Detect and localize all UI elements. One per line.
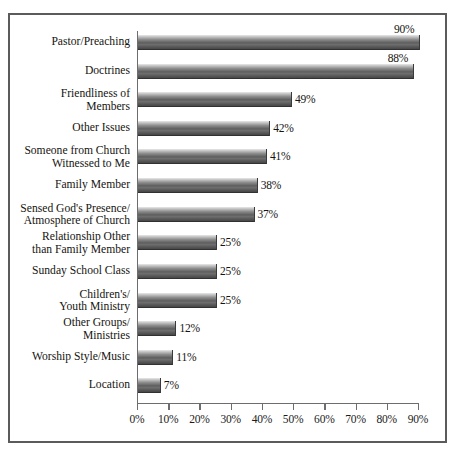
category-label: Doctrines [0, 60, 130, 78]
x-axis-tick [356, 403, 357, 410]
bar [138, 207, 255, 222]
bar-value-label: 49% [295, 93, 315, 105]
category-label: Other Groups/ Ministries [0, 317, 130, 342]
bar-row: Family Member38% [137, 174, 418, 203]
x-axis-tick [137, 403, 138, 410]
bar-value-label: 25% [220, 236, 240, 248]
bar-row: Children's/ Youth Ministry25% [137, 289, 418, 318]
x-axis-tick [231, 403, 232, 410]
category-label: Someone from Church Witnessed to Me [0, 145, 130, 170]
bar [138, 35, 420, 50]
chart-frame: 0%10%20%30%40%50%60%70%80%90% Pastor/Pre… [8, 13, 447, 443]
category-label: Family Member [0, 174, 130, 192]
category-label: Other Issues [0, 117, 130, 135]
bar-value-label: 7% [164, 379, 179, 391]
bar-row: Other Groups/ Ministries12% [137, 317, 418, 346]
category-label: Friendliness of Members [0, 88, 130, 113]
x-axis-line [137, 403, 418, 404]
category-label: Pastor/Preaching [0, 31, 130, 49]
bar-row: Worship Style/Music11% [137, 346, 418, 375]
bar [138, 264, 217, 279]
bar-row: Doctrines88% [137, 60, 418, 89]
bar-value-label: 12% [179, 322, 199, 334]
bar-value-label: 88% [388, 52, 408, 64]
bar-row: Location7% [137, 374, 418, 403]
bar-row: Other Issues42% [137, 117, 418, 146]
bar [138, 178, 258, 193]
x-axis-tick [168, 403, 169, 410]
category-label: Sensed God's Presence/ Atmosphere of Chu… [0, 203, 130, 228]
bar-value-label: 37% [258, 208, 278, 220]
bar [138, 121, 270, 136]
bar-row: Sunday School Class25% [137, 260, 418, 289]
bar-row: Sensed God's Presence/ Atmosphere of Chu… [137, 203, 418, 232]
bar [138, 64, 414, 79]
bar [138, 235, 217, 250]
bar-value-label: 25% [220, 294, 240, 306]
bar-row: Pastor/Preaching90% [137, 31, 418, 60]
x-axis-tick [387, 403, 388, 410]
bar-value-label: 90% [394, 23, 414, 35]
bar-value-label: 38% [261, 179, 281, 191]
bar [138, 350, 173, 365]
bar-value-label: 11% [176, 351, 196, 363]
x-axis-tick [199, 403, 200, 410]
bar-row: Friendliness of Members49% [137, 88, 418, 117]
bar [138, 149, 267, 164]
bar-row: Someone from Church Witnessed to Me41% [137, 145, 418, 174]
category-label: Location [0, 374, 130, 392]
category-label: Relationship Other than Family Member [0, 231, 130, 256]
bar [138, 92, 292, 107]
x-axis-tick [418, 403, 419, 410]
bar [138, 321, 176, 336]
category-label: Worship Style/Music [0, 346, 130, 364]
bar-value-label: 25% [220, 265, 240, 277]
x-axis-tick-label: 90% [398, 413, 438, 425]
category-label: Children's/ Youth Ministry [0, 289, 130, 314]
chart-page: 0%10%20%30%40%50%60%70%80%90% Pastor/Pre… [0, 0, 455, 456]
bar-value-label: 41% [270, 150, 290, 162]
category-label: Sunday School Class [0, 260, 130, 278]
bar-row: Relationship Other than Family Member25% [137, 231, 418, 260]
bar [138, 378, 161, 393]
x-axis-tick [324, 403, 325, 410]
bar [138, 293, 217, 308]
x-axis-tick [262, 403, 263, 410]
plot-area: 0%10%20%30%40%50%60%70%80%90% Pastor/Pre… [137, 31, 419, 403]
x-axis-tick [293, 403, 294, 410]
bar-value-label: 42% [273, 122, 293, 134]
